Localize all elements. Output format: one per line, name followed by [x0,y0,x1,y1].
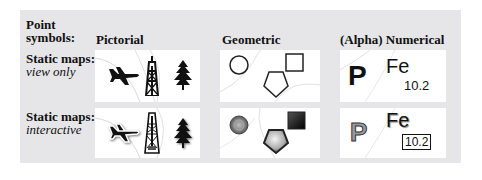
numeric-value-box[interactable]: 10.2 [402,134,431,150]
alpha-letter-symbol[interactable]: P [350,119,367,145]
tile-pictorial-interactive [95,108,200,158]
tile-geometric-static [220,50,320,102]
circle-symbol [228,54,250,76]
pentagon-symbol[interactable] [262,128,290,156]
column-header-geometric: Geometric [222,32,280,48]
row-header-title: Point symbols: [26,18,75,44]
airplane-icon[interactable] [105,120,143,146]
row-header-line2: symbols: [26,31,75,44]
numeric-value-label: 10.2 [404,79,429,92]
column-header-numerical: (Alpha) Numerical [340,32,444,48]
oil-derrick-icon[interactable] [144,112,160,154]
airplane-icon [107,65,141,87]
column-header-pictorial: Pictorial [96,32,144,48]
element-label: Fe [386,56,409,76]
tile-numerical-interactive: P Fe 10.2 [340,108,446,158]
row-label-view-only: Static maps: view only [26,52,95,78]
element-label[interactable]: Fe [386,110,409,130]
pine-tree-icon [173,60,193,90]
oil-derrick-icon [145,56,159,96]
circle-symbol[interactable] [228,114,250,136]
tile-numerical-static: P Fe 10.2 [340,50,446,102]
tile-pictorial-static [95,50,200,102]
row-subtitle: interactive [26,123,95,136]
row-label-interactive: Static maps: interactive [26,110,95,136]
pine-tree-icon[interactable] [173,118,195,150]
alpha-letter-symbol: P [348,62,367,90]
row-subtitle: view only [26,65,95,78]
pentagon-symbol [262,70,290,100]
tile-geometric-interactive [220,108,320,158]
